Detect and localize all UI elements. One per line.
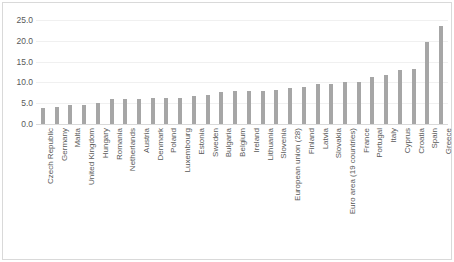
bar[interactable] xyxy=(384,75,388,124)
bar[interactable] xyxy=(233,91,237,124)
bar[interactable] xyxy=(357,82,361,124)
y-axis-tick-label: 5.0 xyxy=(0,99,33,108)
x-slot: Poland xyxy=(160,126,174,256)
x-slot: Czech Republic xyxy=(36,126,50,256)
y-axis-labels: 0.05.010.015.020.025.0 xyxy=(0,20,33,126)
bar-slot xyxy=(421,20,435,124)
bar[interactable] xyxy=(439,26,443,124)
x-slot: Slovenia xyxy=(269,126,283,256)
bar[interactable] xyxy=(41,108,45,124)
bar-slot xyxy=(366,20,380,124)
x-slot: Netherlands xyxy=(118,126,132,256)
bar[interactable] xyxy=(329,84,333,124)
bar[interactable] xyxy=(96,103,100,124)
bar-slot xyxy=(187,20,201,124)
x-axis-line xyxy=(36,124,448,125)
bar-slot xyxy=(379,20,393,124)
x-slot: Luxembourg xyxy=(173,126,187,256)
bar-slot xyxy=(338,20,352,124)
bar-slot xyxy=(352,20,366,124)
x-slot: Estonia xyxy=(187,126,201,256)
bar-slot xyxy=(146,20,160,124)
bar[interactable] xyxy=(343,82,347,124)
x-slot: Slovakia xyxy=(324,126,338,256)
x-slot: Romania xyxy=(105,126,119,256)
x-slot: Germany xyxy=(50,126,64,256)
bar-slot xyxy=(324,20,338,124)
bar[interactable] xyxy=(68,105,72,124)
bar-slot xyxy=(215,20,229,124)
x-slot: Denmark xyxy=(146,126,160,256)
x-slot: Hungary xyxy=(91,126,105,256)
y-axis-tick-label: 25.0 xyxy=(0,16,33,25)
bar-slot xyxy=(283,20,297,124)
bar-slot xyxy=(201,20,215,124)
bar-slot xyxy=(393,20,407,124)
x-axis-tick-label: Greece xyxy=(445,128,453,154)
bar[interactable] xyxy=(425,42,429,124)
bar[interactable] xyxy=(370,77,374,124)
bar-slot xyxy=(269,20,283,124)
x-slot: Lithuania xyxy=(256,126,270,256)
x-slot: Portugal xyxy=(366,126,380,256)
bar-slot xyxy=(242,20,256,124)
x-slot: Italy xyxy=(379,126,393,256)
x-slot: European union (28) xyxy=(283,126,297,256)
y-axis-tick-label: 0.0 xyxy=(0,120,33,129)
bar[interactable] xyxy=(261,91,265,124)
bar-slot xyxy=(63,20,77,124)
bar-slot xyxy=(228,20,242,124)
bar-slot xyxy=(50,20,64,124)
bar[interactable] xyxy=(137,99,141,124)
bar[interactable] xyxy=(151,98,155,124)
bar[interactable] xyxy=(82,105,86,124)
bar[interactable] xyxy=(192,96,196,124)
bar[interactable] xyxy=(110,99,114,124)
bar[interactable] xyxy=(288,88,292,124)
bar-slot xyxy=(77,20,91,124)
bar-slot xyxy=(311,20,325,124)
bar-slot xyxy=(91,20,105,124)
x-slot: Greece xyxy=(434,126,448,256)
x-slot: Sweden xyxy=(201,126,215,256)
x-slot: Ireland xyxy=(242,126,256,256)
bar[interactable] xyxy=(274,90,278,124)
x-axis-labels: Czech RepublicGermanyMaltaUnited Kingdom… xyxy=(36,126,448,256)
bar[interactable] xyxy=(206,95,210,124)
bar[interactable] xyxy=(247,91,251,124)
x-slot: France xyxy=(352,126,366,256)
x-slot: Spain xyxy=(421,126,435,256)
bar[interactable] xyxy=(123,99,127,124)
y-axis-tick-label: 15.0 xyxy=(0,57,33,66)
bar-slot xyxy=(132,20,146,124)
x-slot: Malta xyxy=(63,126,77,256)
y-axis-tick-label: 10.0 xyxy=(0,78,33,87)
bar[interactable] xyxy=(302,87,306,124)
bar-slot xyxy=(297,20,311,124)
y-axis-tick-label: 20.0 xyxy=(0,37,33,46)
bar-chart: 0.05.010.015.020.025.0 Czech RepublicGer… xyxy=(0,0,454,262)
x-slot: Finland xyxy=(297,126,311,256)
bar-slot xyxy=(36,20,50,124)
bar-slot xyxy=(256,20,270,124)
bar[interactable] xyxy=(178,98,182,124)
bar[interactable] xyxy=(398,70,402,124)
bar-slot xyxy=(173,20,187,124)
bar-slot xyxy=(105,20,119,124)
bar[interactable] xyxy=(219,92,223,124)
bar[interactable] xyxy=(55,107,59,124)
bar-slot xyxy=(118,20,132,124)
x-slot: United Kingdom xyxy=(77,126,91,256)
bar-slot xyxy=(160,20,174,124)
x-slot: Euro area (19 countries) xyxy=(338,126,352,256)
bar-slot xyxy=(434,20,448,124)
bar[interactable] xyxy=(412,69,416,124)
x-slot: Austria xyxy=(132,126,146,256)
x-slot: Croatia xyxy=(407,126,421,256)
bars-layer xyxy=(36,20,448,124)
bar[interactable] xyxy=(316,84,320,124)
x-slot: Cyprus xyxy=(393,126,407,256)
bar[interactable] xyxy=(164,98,168,124)
bar-slot xyxy=(407,20,421,124)
x-slot: Bulgaria xyxy=(215,126,229,256)
